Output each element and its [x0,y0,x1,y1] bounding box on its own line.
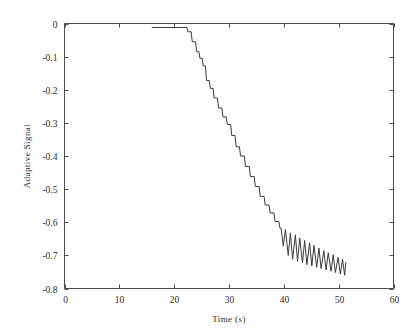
x-axis-ticks [66,24,395,289]
x-tick-label: 10 [115,295,125,305]
figure-canvas: 0102030405060 0-0.1-0.2-0.3-0.4-0.5-0.6-… [0,0,414,335]
chart-svg: 0102030405060 0-0.1-0.2-0.3-0.4-0.5-0.6-… [0,0,414,335]
y-tick-label: -0.7 [42,251,57,261]
y-axis-label: Adaptive Signal [22,124,32,188]
y-tick-label: -0.5 [42,185,57,195]
y-axis-tick-labels: 0-0.1-0.2-0.3-0.4-0.5-0.6-0.7-0.8 [42,20,57,295]
x-tick-label: 40 [280,295,290,305]
y-tick-label: -0.2 [42,86,57,96]
x-tick-label: 0 [63,295,68,305]
axes-frame [65,24,394,289]
data-series-adaptive-signal [152,27,346,275]
y-tick-label: -0.8 [42,285,57,295]
x-tick-label: 20 [170,295,180,305]
y-tick-label: -0.3 [42,119,57,129]
x-tick-label: 30 [225,295,235,305]
y-tick-label: 0 [53,20,58,30]
y-axis-ticks [65,25,394,290]
y-tick-label: -0.6 [42,218,57,228]
x-tick-label: 50 [335,295,345,305]
y-tick-label: -0.1 [42,53,57,63]
x-axis-tick-labels: 0102030405060 [63,295,399,305]
x-axis-label: Time (s) [212,314,246,324]
x-tick-label: 60 [390,295,400,305]
y-tick-label: -0.4 [42,152,57,162]
